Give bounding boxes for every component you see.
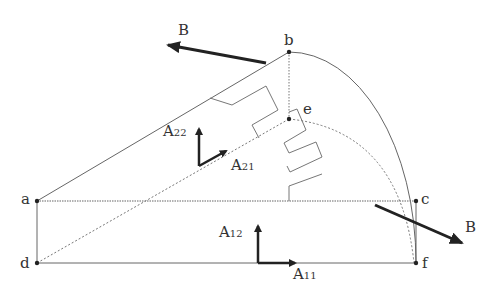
label-B-bottom: B: [465, 220, 476, 235]
label-f: f: [422, 256, 428, 271]
label-A22: A22: [163, 124, 187, 139]
point-b: [287, 50, 291, 54]
label-a: a: [21, 192, 30, 207]
B-bottom-arrow: [375, 205, 462, 243]
outer-arc: [289, 52, 416, 263]
inner-arc: [289, 119, 414, 263]
line-d-e: [37, 119, 289, 263]
label-A12: A12: [219, 225, 243, 240]
comb-tooth-1: [210, 86, 278, 138]
point-f: [414, 261, 418, 265]
label-c: c: [421, 192, 429, 207]
point-e: [287, 117, 291, 121]
point-d: [35, 261, 39, 265]
label-d: d: [20, 256, 30, 271]
label-B-top: B: [178, 23, 189, 38]
label-A11: A11: [293, 267, 317, 282]
diagram-graphics: [0, 0, 492, 303]
point-a: [35, 199, 39, 203]
comb-tooth-3: [289, 174, 322, 201]
label-e: e: [303, 102, 312, 117]
label-A21: A21: [231, 158, 255, 173]
point-c: [414, 199, 418, 203]
label-b: b: [284, 33, 294, 48]
diagram-canvas: a b c d e f B B A22 A21 A12 A11: [0, 0, 492, 303]
B-top-arrow: [168, 45, 266, 63]
A21-arrow: [199, 151, 226, 166]
